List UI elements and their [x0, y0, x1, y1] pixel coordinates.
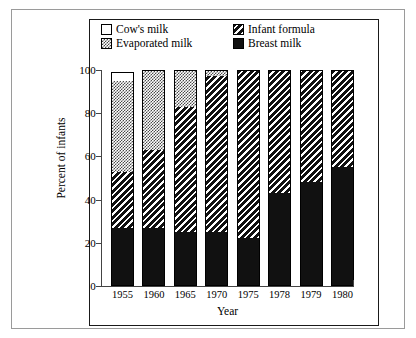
y-tick-100: 100 — [96, 70, 102, 71]
y-tick-label-80: 80 — [85, 107, 96, 119]
segment-evaporated-1955 — [111, 81, 134, 172]
x-axis-left-cap — [101, 280, 102, 287]
y-tick-40: 40 — [96, 200, 102, 201]
y-tick-label-100: 100 — [79, 64, 96, 76]
segment-breast-1970 — [205, 232, 228, 286]
x-tick-label-1980: 1980 — [331, 289, 354, 300]
segment-formula-1970 — [205, 76, 228, 232]
segment-breast-1965 — [174, 232, 197, 286]
bar-1970[interactable] — [205, 70, 228, 286]
x-tick-label-1979: 1979 — [300, 289, 323, 300]
y-tick-label-40: 40 — [85, 194, 96, 206]
y-axis-title: Percent of infants — [55, 88, 67, 228]
segment-breast-1960 — [142, 228, 165, 286]
x-tick-label-1965: 1965 — [174, 289, 197, 300]
legend-label-evaporated-milk: Evaporated milk — [116, 37, 229, 49]
segment-evaporated-1960 — [142, 70, 165, 150]
x-tick-label-1970: 1970 — [205, 289, 228, 300]
x-axis-tick-labels: 19551960196519701975197819791980 — [111, 289, 354, 300]
y-axis-line — [101, 70, 102, 286]
segment-breast-1955 — [111, 228, 134, 286]
segment-breast-1978 — [268, 193, 291, 286]
bar-group — [111, 70, 354, 286]
bar-1965[interactable] — [174, 70, 197, 286]
y-tick-20: 20 — [96, 243, 102, 244]
segment-formula-1979 — [300, 70, 323, 182]
legend-label-infant-formula: Infant formula — [248, 23, 361, 35]
x-axis-right-cap — [353, 280, 354, 287]
x-axis-line — [101, 286, 354, 287]
legend-label-breast-milk: Breast milk — [248, 37, 361, 49]
x-tick-label-1955: 1955 — [111, 289, 134, 300]
segment-formula-1978 — [268, 70, 291, 193]
x-axis-title: Year — [101, 305, 354, 317]
y-tick-80: 80 — [96, 113, 102, 114]
bar-1980[interactable] — [331, 70, 354, 286]
y-tick-60: 60 — [96, 156, 102, 157]
segment-formula-1955 — [111, 172, 134, 228]
solid-black-swatch — [233, 38, 244, 49]
legend-label-cow-milk: Cow's milk — [116, 23, 229, 35]
segment-formula-1975 — [237, 70, 260, 238]
chart-legend: Cow's milk Infant formula Evaporated mil… — [101, 23, 361, 49]
white-square-swatch — [101, 24, 112, 35]
segment-breast-1975 — [237, 238, 260, 286]
chart-screenshot: Cow's milk Infant formula Evaporated mil… — [0, 0, 416, 338]
bar-1955[interactable] — [111, 70, 134, 286]
x-tick-label-1960: 1960 — [142, 289, 165, 300]
segment-formula-1965 — [174, 107, 197, 232]
bar-1975[interactable] — [237, 70, 260, 286]
bar-1978[interactable] — [268, 70, 291, 286]
segment-breast-1980 — [331, 167, 354, 286]
diagonal-hatch-swatch — [233, 24, 244, 35]
segment-formula-1980 — [331, 70, 354, 167]
bar-1979[interactable] — [300, 70, 323, 286]
dotted-square-swatch — [101, 38, 112, 49]
bar-1960[interactable] — [142, 70, 165, 286]
x-tick-label-1975: 1975 — [237, 289, 260, 300]
y-tick-label-0: 0 — [90, 280, 96, 292]
segment-cow-1955 — [111, 72, 134, 81]
plot-area: 020406080100 — [101, 70, 354, 286]
segment-breast-1979 — [300, 182, 323, 286]
y-tick-label-60: 60 — [85, 150, 96, 162]
x-tick-label-1978: 1978 — [268, 289, 291, 300]
segment-evaporated-1965 — [174, 70, 197, 107]
y-tick-label-20: 20 — [85, 237, 96, 249]
segment-formula-1960 — [142, 150, 165, 228]
